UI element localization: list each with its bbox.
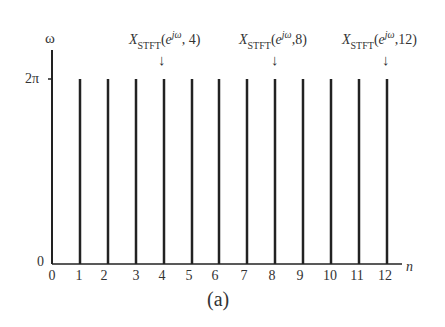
- x-tick-9: 9: [297, 268, 304, 284]
- x-tick-7: 7: [241, 268, 248, 284]
- x-tick-6: 6: [212, 268, 219, 284]
- x-tick-1: 1: [76, 268, 83, 284]
- x-tick-12: 12: [378, 268, 392, 284]
- figure-caption: (a): [207, 288, 229, 311]
- annotation-n8: XSTFT(ejω,8): [239, 32, 307, 48]
- x-tick-11: 11: [350, 268, 363, 284]
- x-tick-4: 4: [159, 268, 166, 284]
- x-axis-label: n: [406, 259, 413, 275]
- arrow-down-icon: ↓: [382, 52, 390, 69]
- sample-lines: [80, 79, 387, 264]
- y-tick-label-top: 2π: [25, 71, 39, 87]
- annotation-n4: XSTFT(ejω, 4): [129, 32, 200, 48]
- x-tick-3: 3: [133, 268, 140, 284]
- annotation-n12: XSTFT(ejω,12): [342, 32, 417, 48]
- arrow-down-icon: ↓: [271, 52, 279, 69]
- x-tick-10: 10: [323, 268, 337, 284]
- arrow-down-icon: ↓: [158, 52, 166, 69]
- x-tick-8: 8: [269, 268, 276, 284]
- y-tick-label-bottom: 0: [37, 254, 44, 270]
- x-tick-5: 5: [186, 268, 193, 284]
- x-tick-2: 2: [101, 268, 108, 284]
- x-tick-0: 0: [49, 268, 56, 284]
- y-axis-label: ω: [45, 30, 55, 47]
